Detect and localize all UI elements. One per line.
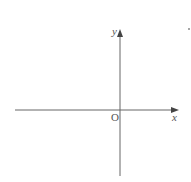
dot-marker bbox=[188, 28, 190, 30]
y-axis-label: y bbox=[112, 26, 117, 37]
x-axis-label: x bbox=[172, 112, 177, 123]
y-axis-arrow-icon bbox=[117, 29, 123, 37]
origin-label: O bbox=[111, 112, 119, 123]
axes-canvas bbox=[0, 0, 191, 182]
